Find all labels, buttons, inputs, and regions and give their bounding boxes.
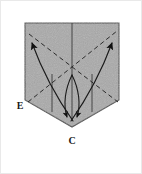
label-e: E	[17, 100, 24, 111]
label-c: C	[68, 135, 75, 146]
origami-fold-diagram: E C	[1, 1, 142, 174]
figure-root: E C	[0, 0, 142, 174]
